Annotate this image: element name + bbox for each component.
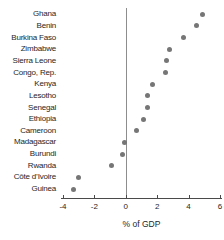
category-label: Senegal <box>0 103 56 113</box>
data-point <box>109 163 114 168</box>
x-axis-tick-label: 6 <box>210 202 224 211</box>
category-label: Ghana <box>0 9 56 19</box>
category-label: Rwanda <box>0 161 56 171</box>
data-point <box>122 140 127 145</box>
category-label: Kenya <box>0 79 56 89</box>
data-point <box>76 175 81 180</box>
dot-plot-figure: GhanaBeninBurkina FasoZimbabweSierra Leo… <box>0 0 224 240</box>
x-axis-tick-label: -4 <box>53 202 73 211</box>
category-label: Lesotho <box>0 91 56 101</box>
x-axis-tick-label: 0 <box>116 202 136 211</box>
category-label: Zimbabwe <box>0 44 56 54</box>
data-point <box>134 128 139 133</box>
x-axis-line <box>61 198 222 199</box>
data-point <box>163 70 168 75</box>
category-label: Guinea <box>0 184 56 194</box>
category-label: Madagascar <box>0 137 56 147</box>
x-axis-tick <box>189 195 190 199</box>
x-axis-tick <box>157 195 158 199</box>
data-point <box>71 187 76 192</box>
data-point <box>120 152 125 157</box>
category-label: Côte d’Ivoire <box>0 172 56 182</box>
data-point <box>200 12 205 17</box>
category-label: Benin <box>0 21 56 31</box>
plot-area <box>60 6 222 199</box>
x-axis-tick <box>94 195 95 199</box>
category-label: Ethiopia <box>0 114 56 124</box>
x-axis-tick <box>63 195 64 199</box>
data-point <box>145 105 150 110</box>
data-point <box>164 58 169 63</box>
category-label: Burkina Faso <box>0 33 56 43</box>
x-axis-tick-label: -2 <box>84 202 104 211</box>
category-label: Burundi <box>0 149 56 159</box>
x-axis-tick <box>220 195 221 199</box>
data-point <box>167 47 172 52</box>
x-axis-title: % of GDP <box>63 219 220 229</box>
x-axis-tick <box>126 195 127 199</box>
data-point <box>145 93 150 98</box>
x-axis-tick-label: 2 <box>147 202 167 211</box>
category-label: Sierra Leone <box>0 56 56 66</box>
category-label: Congo, Rep. <box>0 68 56 78</box>
data-point <box>150 82 155 87</box>
data-point <box>141 117 146 122</box>
zero-reference-line <box>126 8 127 199</box>
data-point <box>181 35 186 40</box>
data-point <box>194 23 199 28</box>
category-label: Cameroon <box>0 126 56 136</box>
x-axis-tick-label: 4 <box>179 202 199 211</box>
